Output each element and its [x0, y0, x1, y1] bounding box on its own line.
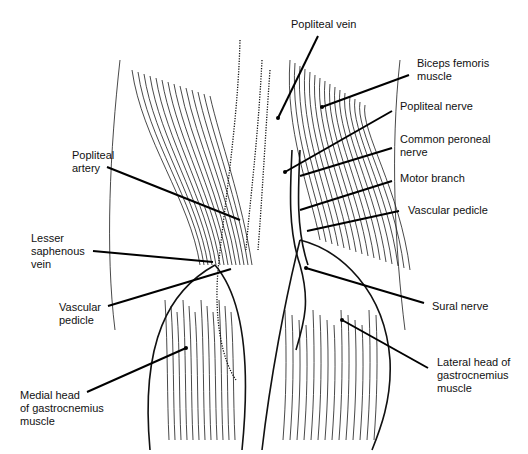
muscle-fiber	[213, 312, 217, 440]
leader-popliteal-vein	[278, 36, 318, 118]
muscle-fiber	[360, 325, 363, 440]
label-biceps-femoris-muscle: Biceps femoris muscle	[417, 57, 489, 83]
leader-lines	[87, 36, 428, 392]
label-vascular-pedicle-left: Vascular pedicle	[59, 301, 101, 327]
label-common-peroneal-nerve: Common peroneal nerve	[400, 133, 491, 159]
muscle-fiber	[171, 306, 175, 440]
muscle-fiber	[225, 306, 229, 440]
leader-motor-branch	[300, 181, 392, 210]
muscle-fiber	[168, 82, 224, 265]
muscle-fiber	[207, 306, 211, 440]
label-sural-nerve: Sural nerve	[432, 300, 488, 313]
muscle-fiber	[353, 320, 356, 440]
muscle-fiber	[332, 325, 335, 440]
muscle-fiber	[311, 310, 314, 440]
muscle-fiber	[201, 300, 205, 440]
muscle-fiber	[177, 312, 181, 440]
muscle-fiber	[339, 310, 342, 440]
muscle-fiber	[367, 310, 370, 440]
lateral-gastrocnemius-drawing	[262, 240, 390, 450]
leader-vascular-pedicle-left	[108, 269, 231, 306]
muscle-fiber	[192, 90, 240, 265]
muscle-fiber	[195, 312, 199, 440]
leader-medial-head	[87, 348, 186, 392]
muscle-fiber	[183, 300, 187, 440]
muscle-fiber	[283, 310, 286, 440]
muscle-fiber	[231, 312, 235, 440]
muscle-fiber	[374, 315, 377, 440]
label-popliteal-artery: Popliteal artery	[72, 149, 114, 175]
label-medial-head-gastrocnemius: Medial head of gastrocnemius muscle	[20, 389, 104, 428]
muscle-fiber	[304, 325, 307, 440]
muscle-fiber	[198, 92, 244, 265]
label-popliteal-nerve: Popliteal nerve	[400, 100, 473, 113]
muscle-fiber	[290, 315, 293, 440]
muscle-fiber	[174, 84, 228, 265]
muscle-fiber	[144, 74, 208, 265]
thigh-muscle-fibers	[110, 60, 410, 330]
label-lesser-saphenous-vein: Lesser saphenous vein	[31, 232, 85, 271]
muscle-fiber	[325, 320, 328, 440]
muscle-fiber	[165, 300, 169, 440]
label-vascular-pedicle-right: Vascular pedicle	[408, 204, 488, 217]
leader-lesser-saphenous-vein	[93, 251, 213, 262]
muscle-fiber	[346, 315, 349, 440]
label-lateral-head-gastrocnemius: Lateral head of gastrocnemius muscle	[437, 356, 510, 395]
muscle-fiber	[219, 300, 223, 440]
label-popliteal-vein: Popliteal vein	[291, 18, 356, 31]
muscle-fiber	[189, 306, 193, 440]
leader-sural-nerve	[306, 268, 424, 303]
label-motor-branch: Motor branch	[400, 172, 465, 185]
muscle-fiber	[150, 76, 212, 265]
muscle-fiber	[318, 315, 321, 440]
muscle-fiber	[110, 60, 120, 330]
